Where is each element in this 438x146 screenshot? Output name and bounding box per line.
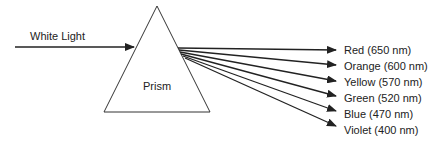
prism-label: Prism bbox=[143, 80, 171, 92]
dispersed-rays bbox=[178, 48, 336, 126]
ray-violet-arrow bbox=[185, 58, 336, 126]
ray-green-arrow bbox=[181, 54, 336, 96]
ray-red-arrow bbox=[178, 48, 336, 50]
ray-label-blue: Blue (470 nm) bbox=[344, 108, 413, 120]
diagram-canvas: Prism White Light Red (650 nm) Orange (6… bbox=[0, 0, 438, 146]
ray-label-orange: Orange (600 nm) bbox=[344, 60, 428, 72]
prism-triangle bbox=[104, 6, 210, 112]
white-light-label: White Light bbox=[30, 30, 85, 42]
ray-label-red: Red (650 nm) bbox=[344, 44, 411, 56]
prism-dispersion-diagram: Prism White Light Red (650 nm) Orange (6… bbox=[0, 0, 438, 146]
ray-label-green: Green (520 nm) bbox=[344, 92, 422, 104]
ray-label-yellow: Yellow (570 nm) bbox=[344, 76, 422, 88]
ray-labels: Red (650 nm) Orange (600 nm) Yellow (570… bbox=[344, 44, 428, 136]
ray-label-violet: Violet (400 nm) bbox=[344, 124, 418, 136]
ray-blue-arrow bbox=[183, 56, 336, 111]
